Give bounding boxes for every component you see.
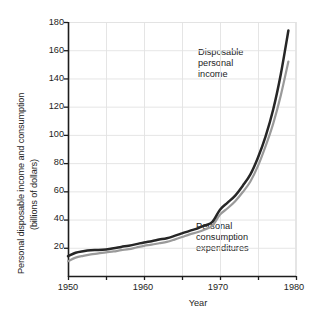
data-series xyxy=(68,30,288,261)
plot-area xyxy=(0,0,317,324)
chart-figure: Personal disposable income and consumpti… xyxy=(0,0,317,324)
